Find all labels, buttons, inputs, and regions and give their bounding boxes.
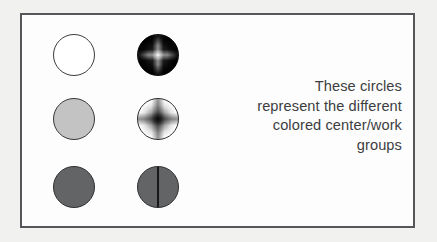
legend-circle-light-grey	[53, 98, 95, 140]
caption-line-3: colored center/work	[187, 116, 402, 136]
caption-line-1: These circles	[187, 77, 402, 97]
legend-circle-dark-grey	[53, 166, 95, 208]
caption-line-4: groups	[187, 136, 402, 156]
legend-circle-open-white	[53, 34, 95, 76]
figure-caption: These circles represent the different co…	[187, 77, 402, 155]
caption-line-2: represent the different	[187, 97, 402, 117]
legend-circle-white-starburst	[137, 98, 179, 140]
legend-circle-black-starburst	[137, 34, 179, 76]
figure-panel: These circles represent the different co…	[20, 13, 415, 228]
legend-circle-dark-grey-split	[137, 166, 179, 208]
vertical-divider-line	[157, 167, 159, 207]
